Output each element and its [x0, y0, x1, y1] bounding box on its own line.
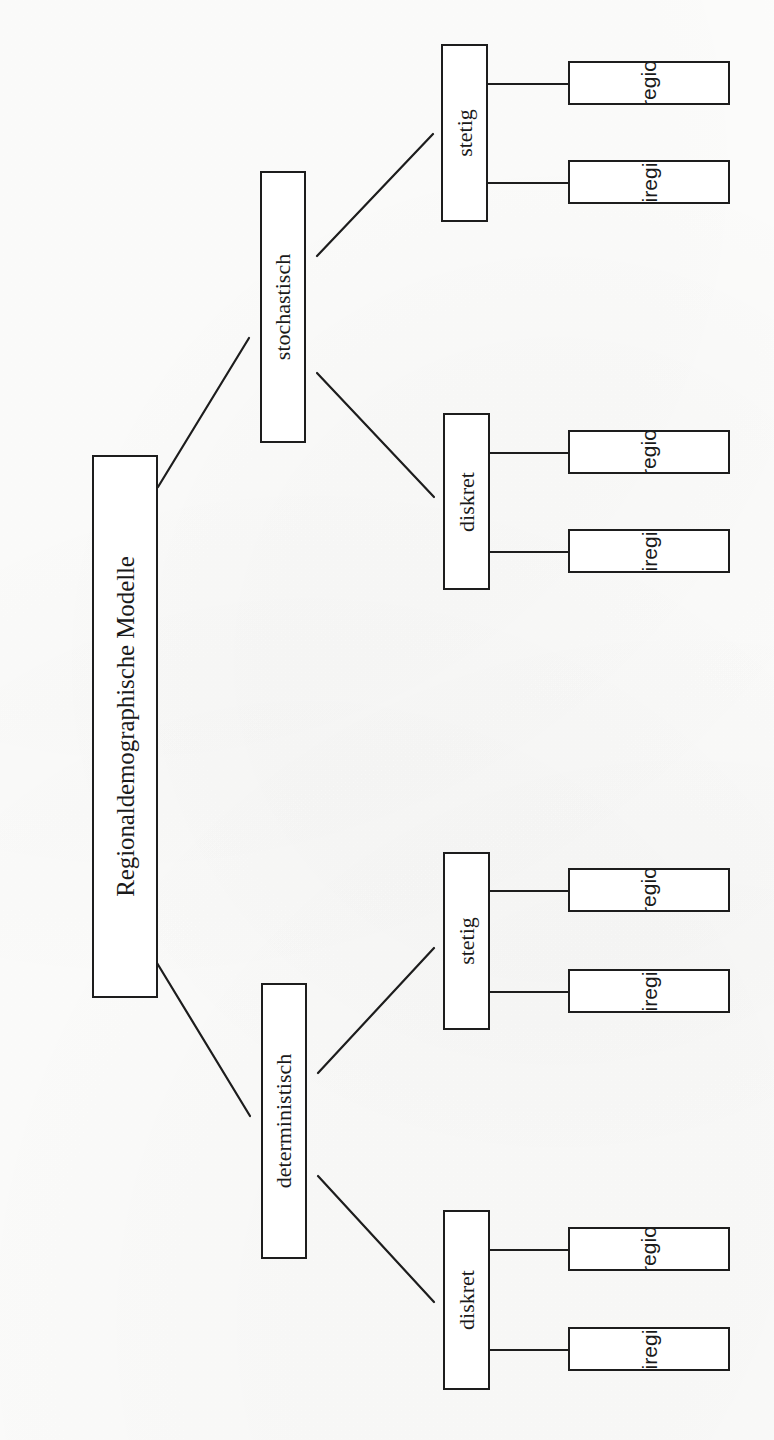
- edge-stochastisch-stetig: [317, 134, 433, 256]
- node-deterministisch-diskret: diskret: [443, 1210, 490, 1390]
- node-stochastisch-diskret: diskret: [443, 413, 490, 590]
- node-deterministisch-stetig-label: stetig: [456, 917, 478, 965]
- connector-diskret-einregional-2: [488, 1249, 569, 1251]
- figure-caption-clip: Abb. 1: Einteilung der regionaldemograph…: [744, 1040, 774, 1440]
- edge-root-stochastisch: [158, 338, 249, 487]
- node-stochastisch-stetig-label: stetig: [454, 109, 476, 157]
- node-deterministisch-label: deterministisch: [273, 1054, 295, 1188]
- connector-diskret-multiregional-2: [488, 1349, 569, 1351]
- edge-deterministisch-stetig: [318, 948, 434, 1073]
- leaf-label: multiregional: [638, 1327, 659, 1371]
- connector-stetig-multiregional-2: [488, 991, 569, 993]
- leaf-label: multiregional: [638, 969, 659, 1013]
- leaf-label: einregional: [638, 61, 659, 105]
- edge-root-deterministisch: [157, 963, 250, 1116]
- connector-stetig-einregional-1: [488, 83, 569, 85]
- edge-deterministisch-diskret: [318, 1176, 434, 1302]
- connector-diskret-einregional-1: [488, 452, 569, 454]
- leaf-node: einregional: [568, 868, 730, 912]
- node-stochastisch-diskret-label: diskret: [456, 472, 478, 532]
- leaf-node: multiregional: [568, 969, 730, 1013]
- edge-stochastisch-diskret: [317, 373, 434, 497]
- leaf-label: einregional: [638, 868, 659, 912]
- node-deterministisch-stetig: stetig: [443, 852, 490, 1030]
- node-deterministisch: deterministisch: [261, 983, 307, 1259]
- leaf-node: multiregional: [568, 1327, 730, 1371]
- node-deterministisch-diskret-label: diskret: [456, 1270, 478, 1330]
- leaf-label: multiregional: [638, 529, 659, 573]
- leaf-label: multiregional: [638, 160, 659, 204]
- figure-canvas: Regionaldemographische Modelle stochasti…: [0, 0, 774, 1440]
- node-stochastisch-stetig: stetig: [441, 44, 488, 222]
- leaf-label: einregional: [638, 1227, 659, 1271]
- leaf-node: multiregional: [568, 160, 730, 204]
- leaf-node: einregional: [568, 1227, 730, 1271]
- node-root-label: Regionaldemographische Modelle: [113, 556, 138, 897]
- leaf-node: einregional: [568, 430, 730, 474]
- leaf-node: multiregional: [568, 529, 730, 573]
- node-root: Regionaldemographische Modelle: [92, 455, 158, 998]
- node-stochastisch: stochastisch: [260, 171, 306, 443]
- connector-stetig-multiregional-1: [488, 182, 569, 184]
- connector-stetig-einregional-2: [488, 890, 569, 892]
- leaf-label: einregional: [638, 430, 659, 474]
- connector-diskret-multiregional-1: [488, 551, 569, 553]
- leaf-node: einregional: [568, 61, 730, 105]
- node-stochastisch-label: stochastisch: [272, 254, 294, 360]
